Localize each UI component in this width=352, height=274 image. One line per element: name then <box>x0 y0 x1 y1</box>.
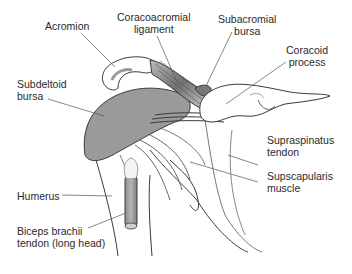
shoulder-anatomy-diagram: Acromion Coracoacromialligament Subacrom… <box>0 0 352 274</box>
subdeltoid-bursa-shape <box>84 88 190 160</box>
coracoid-process-shape <box>200 84 330 122</box>
label-coracoacromial-ligament: Coracoacromialligament <box>117 11 191 35</box>
acromion-shape <box>102 57 156 90</box>
scapula-outline <box>150 120 262 252</box>
label-humerus: Humerus <box>17 190 60 202</box>
label-subscapularis-muscle: Supscapularismuscle <box>267 170 333 194</box>
label-acromion: Acromion <box>45 20 89 32</box>
label-subdeltoid-bursa: Subdeltoidbursa <box>17 78 67 102</box>
leader-lines <box>48 32 286 228</box>
label-supraspinatus-tendon: Supraspinatustendon <box>267 134 334 158</box>
biceps-tendon-shape <box>125 176 137 226</box>
label-coracoid-process: Coracoidprocess <box>286 44 328 68</box>
label-biceps-tendon: Biceps brachiitendon (long head) <box>17 225 105 249</box>
label-subacromial-bursa: Subacromialbursa <box>218 13 276 37</box>
